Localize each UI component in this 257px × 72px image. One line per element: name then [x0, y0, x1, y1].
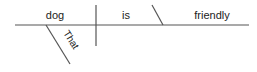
subject-word: dog [46, 9, 64, 21]
complement-slant-line [152, 5, 163, 25]
verb-word: is [122, 9, 130, 21]
predicate-adjective-word: friendly [194, 9, 230, 21]
sentence-diagram: dog is friendly That [0, 0, 257, 72]
modifier-word: That [61, 28, 81, 51]
